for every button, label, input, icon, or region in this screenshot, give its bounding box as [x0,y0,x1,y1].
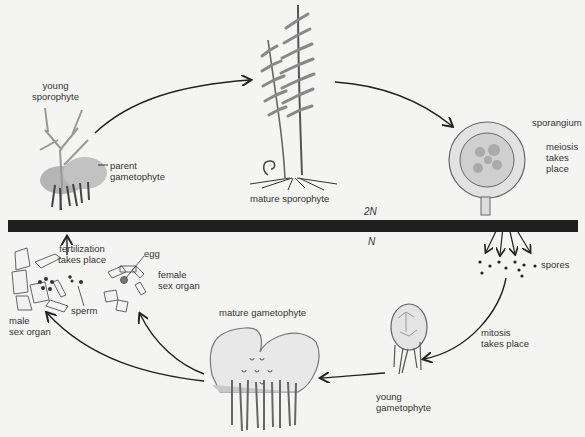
life-cycle-artwork [0,0,585,437]
label-mature-sporophyte: mature sporophyte [250,193,329,204]
label-egg: egg [144,248,160,259]
female-sex-organ-illustration [104,266,146,312]
spore-dots [478,260,536,277]
label-fertilization: fertilization takes place [58,243,106,265]
label-spores: spores [541,259,570,270]
label-young-gametophyte: young gametophyte [376,391,431,413]
label-mitosis: mitosis takes place [481,327,529,349]
mature-gametophyte-illustration [210,328,319,431]
label-male-sex-organ: male sex organ [9,315,51,337]
young-gametophyte-illustration [391,304,427,374]
label-young-sporophyte: young sporophyte [32,80,79,102]
sporangium-illustration [449,122,525,215]
mature-sporophyte-illustration [250,5,337,190]
haploid-label: N [368,236,375,247]
label-sperm: sperm [71,305,97,316]
label-parent-gametophyte: parent gametophyte [110,160,165,182]
ploidy-divider-bar [8,220,578,232]
label-mature-gametophyte: mature gametophyte [219,307,306,318]
label-sporangium: sporangium [532,117,582,128]
label-female-sex-organ: female sex organ [158,269,200,291]
sperm-cells [68,275,83,284]
label-meiosis: meiosis takes place [546,141,578,174]
diploid-label: 2N [364,206,377,217]
young-sporophyte-illustration [40,108,108,210]
